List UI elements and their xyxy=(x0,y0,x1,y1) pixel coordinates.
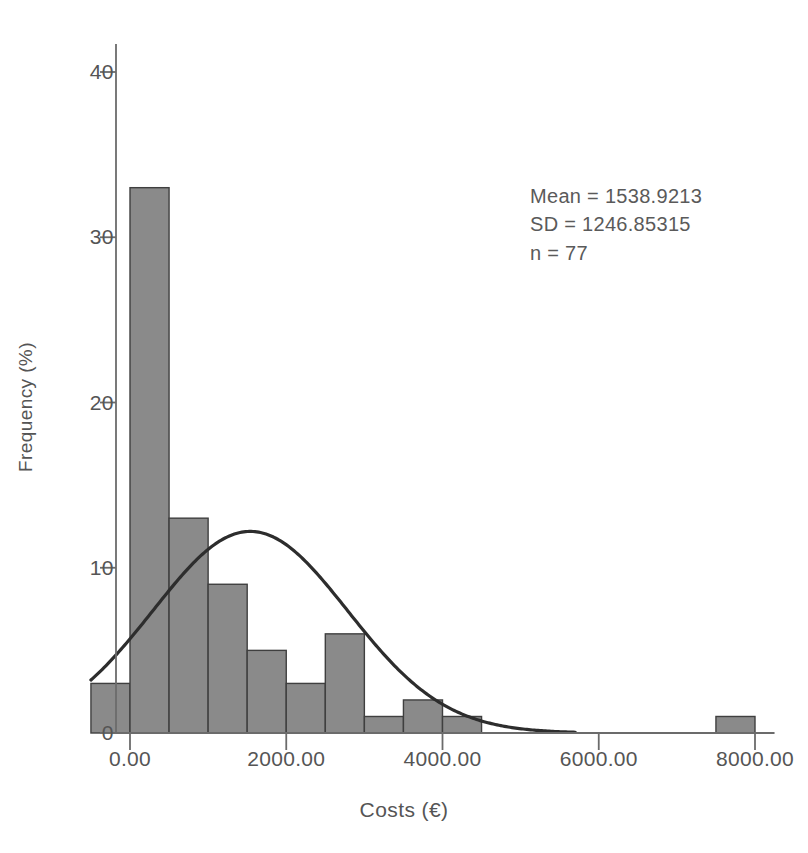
x-tick-label-4000: 4000.00 xyxy=(353,748,533,769)
x-tick-label-0: 0.00 xyxy=(40,748,220,769)
y-axis-title: Frequency (%) xyxy=(15,297,37,517)
x-tick-label-8000: 8000.00 xyxy=(665,748,808,769)
mean-label: Mean = 1538.9213 xyxy=(530,182,702,210)
histogram-figure: 40 30 20 10 0 0.00 2000.00 4000.00 6000.… xyxy=(0,0,808,853)
n-label: n = 77 xyxy=(530,239,702,267)
x-tick-label-2000: 2000.00 xyxy=(196,748,376,769)
sd-label: SD = 1246.85315 xyxy=(530,210,702,238)
x-axis-title: Costs (€) xyxy=(0,798,808,822)
x-tick-label-6000: 6000.00 xyxy=(509,748,689,769)
x-axis-tick-labels: 0.00 2000.00 4000.00 6000.00 8000.00 xyxy=(0,0,808,853)
statistics-annotation: Mean = 1538.9213 SD = 1246.85315 n = 77 xyxy=(530,182,702,267)
